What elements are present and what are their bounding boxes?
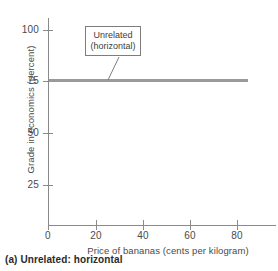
- x-axis-line: [48, 225, 276, 226]
- x-axis-ticklabel-40: 40: [128, 231, 158, 241]
- y-axis-line: [48, 18, 49, 226]
- y-axis-tick-50: [43, 133, 53, 134]
- x-axis-ticklabel-0: 0: [33, 231, 63, 241]
- y-axis-tick-100: [43, 30, 53, 31]
- annotation-line-2: (horizontal): [88, 41, 138, 52]
- x-axis-ticklabel-60: 60: [175, 231, 205, 241]
- figure-unrelated-horizontal: 100 75 50 25 0 20 40 60 80 Grade in econ…: [0, 0, 278, 271]
- series-line-unrelated: [49, 79, 248, 82]
- x-axis-ticklabel-80: 80: [222, 231, 252, 241]
- x-axis-tick-60: [190, 220, 191, 230]
- annotation-label-unrelated: Unrelated (horizontal): [85, 26, 141, 56]
- x-axis-tick-0: [48, 220, 49, 230]
- x-axis-ticklabel-20: 20: [81, 231, 111, 241]
- x-axis-tick-20: [96, 220, 97, 230]
- figure-caption: (a) Unrelated: horizontal: [5, 254, 123, 265]
- x-axis-tick-80: [237, 220, 238, 230]
- annotation-leader-line: [100, 57, 124, 81]
- x-axis-tick-40: [143, 220, 144, 230]
- annotation-line-1: Unrelated: [88, 30, 138, 41]
- y-axis-title: Grade in economics (percent): [25, 20, 36, 200]
- y-axis-tick-25: [43, 185, 53, 186]
